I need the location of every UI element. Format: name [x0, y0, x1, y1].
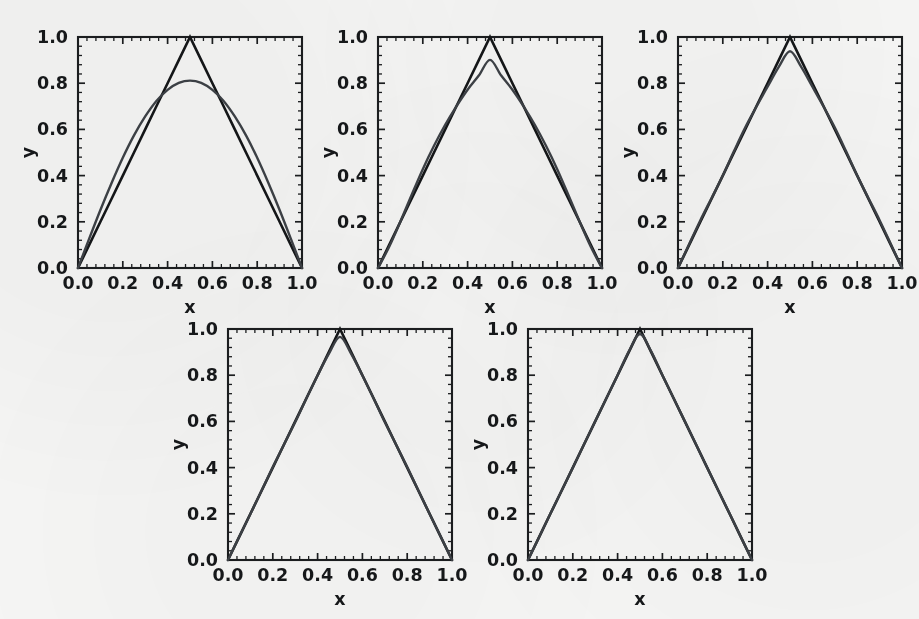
y-tick-label: 1.0: [37, 27, 68, 47]
curve-approximation: [78, 81, 302, 268]
x-tick-label: 0.2: [257, 565, 288, 585]
y-axis-label: y: [318, 146, 338, 158]
x-tick-label: 0.4: [152, 273, 183, 293]
y-tick-label: 0.6: [37, 119, 68, 139]
curve-exact: [678, 37, 902, 268]
y-tick-label: 0.2: [637, 212, 668, 232]
x-tick-label: 0.6: [497, 273, 528, 293]
y-tick-label: 0.0: [37, 258, 68, 278]
x-tick-label: 1.0: [436, 565, 467, 585]
y-axis-label: y: [618, 146, 638, 158]
plot-frame: [528, 329, 752, 560]
curve-approximation: [378, 60, 602, 268]
y-tick-label: 0.4: [337, 166, 368, 186]
y-tick-label: 0.8: [187, 365, 218, 385]
plot-svg-1: 0.00.20.40.60.81.00.00.20.40.60.81.0xy: [16, 14, 312, 320]
chart-panel-1: 0.00.20.40.60.81.00.00.20.40.60.81.0xy: [16, 14, 312, 320]
y-tick-label: 0.2: [37, 212, 68, 232]
plot-frame: [228, 329, 452, 560]
curve-exact: [378, 37, 602, 268]
x-tick-label: 0.8: [692, 565, 723, 585]
curve-approximation: [228, 337, 452, 560]
y-tick-label: 1.0: [337, 27, 368, 47]
plot-svg-2: 0.00.20.40.60.81.00.00.20.40.60.81.0xy: [316, 14, 612, 320]
y-tick-label: 0.6: [637, 119, 668, 139]
curve-approximation: [528, 334, 752, 560]
x-tick-label: 0.4: [452, 273, 483, 293]
y-tick-label: 0.2: [337, 212, 368, 232]
y-tick-label: 0.4: [37, 166, 68, 186]
x-tick-label: 1.0: [586, 273, 617, 293]
chart-panel-2: 0.00.20.40.60.81.00.00.20.40.60.81.0xy: [316, 14, 612, 320]
y-tick-label: 1.0: [637, 27, 668, 47]
y-tick-label: 0.2: [487, 504, 518, 524]
x-tick-label: 1.0: [886, 273, 917, 293]
chart-panel-5: 0.00.20.40.60.81.00.00.20.40.60.81.0xy: [466, 306, 762, 612]
x-tick-label: 1.0: [736, 565, 767, 585]
x-tick-label: 1.0: [286, 273, 317, 293]
x-tick-label: 0.8: [392, 565, 423, 585]
plot-frame: [78, 37, 302, 268]
y-tick-label: 0.8: [337, 73, 368, 93]
x-tick-label: 0.4: [752, 273, 783, 293]
y-tick-label: 1.0: [187, 319, 218, 339]
y-tick-label: 0.2: [187, 504, 218, 524]
x-tick-label: 0.2: [107, 273, 138, 293]
y-tick-label: 0.4: [187, 458, 218, 478]
x-tick-label: 0.8: [542, 273, 573, 293]
x-axis-label: x: [634, 589, 646, 609]
chart-panel-4: 0.00.20.40.60.81.00.00.20.40.60.81.0xy: [166, 306, 462, 612]
y-tick-label: 0.8: [487, 365, 518, 385]
x-tick-label: 0.2: [407, 273, 438, 293]
x-tick-label: 0.6: [197, 273, 228, 293]
y-tick-label: 1.0: [487, 319, 518, 339]
x-tick-label: 0.8: [842, 273, 873, 293]
x-tick-label: 0.2: [707, 273, 738, 293]
y-tick-label: 0.4: [487, 458, 518, 478]
plot-svg-5: 0.00.20.40.60.81.00.00.20.40.60.81.0xy: [466, 306, 762, 612]
y-axis-label: y: [468, 438, 488, 450]
y-tick-label: 0.4: [637, 166, 668, 186]
y-tick-label: 0.0: [187, 550, 218, 570]
x-tick-label: 0.2: [557, 565, 588, 585]
chart-panel-3: 0.00.20.40.60.81.00.00.20.40.60.81.0xy: [616, 14, 912, 320]
x-axis-label: x: [784, 297, 796, 317]
x-tick-label: 0.4: [602, 565, 633, 585]
plot-frame: [378, 37, 602, 268]
x-tick-label: 0.6: [647, 565, 678, 585]
plot-frame: [678, 37, 902, 268]
curve-exact: [228, 329, 452, 560]
curve-exact: [528, 329, 752, 560]
y-tick-label: 0.6: [337, 119, 368, 139]
y-tick-label: 0.8: [637, 73, 668, 93]
y-axis-label: y: [18, 146, 38, 158]
y-axis-label: y: [168, 438, 188, 450]
x-tick-label: 0.4: [302, 565, 333, 585]
y-tick-label: 0.0: [637, 258, 668, 278]
x-tick-label: 0.8: [242, 273, 273, 293]
y-tick-label: 0.6: [487, 411, 518, 431]
curve-approximation: [678, 51, 902, 268]
y-tick-label: 0.8: [37, 73, 68, 93]
y-tick-label: 0.0: [337, 258, 368, 278]
y-tick-label: 0.6: [187, 411, 218, 431]
x-axis-label: x: [334, 589, 346, 609]
x-tick-label: 0.6: [797, 273, 828, 293]
plot-svg-4: 0.00.20.40.60.81.00.00.20.40.60.81.0xy: [166, 306, 462, 612]
plot-svg-3: 0.00.20.40.60.81.00.00.20.40.60.81.0xy: [616, 14, 912, 320]
curve-exact: [78, 37, 302, 268]
y-tick-label: 0.0: [487, 550, 518, 570]
x-tick-label: 0.6: [347, 565, 378, 585]
